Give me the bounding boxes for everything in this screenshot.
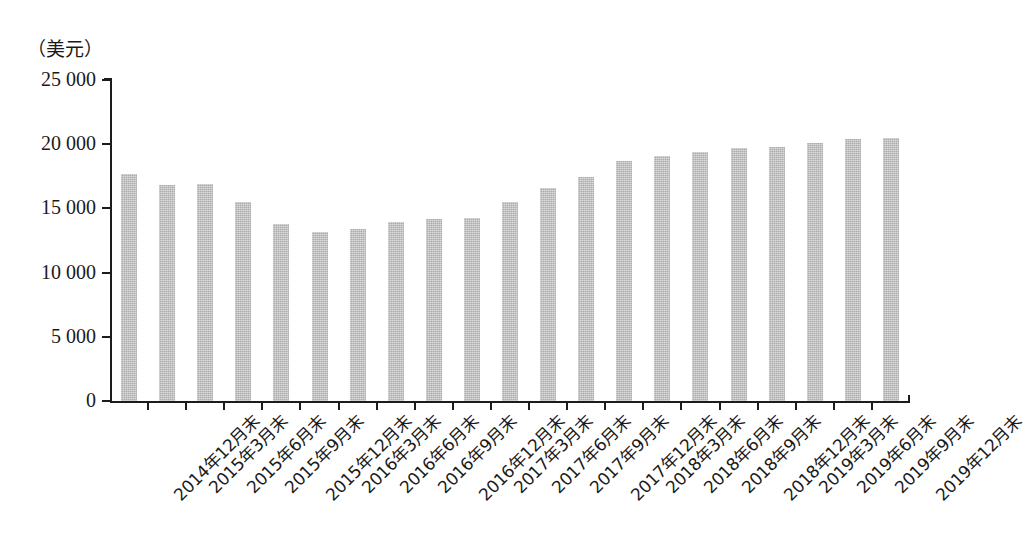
bar [502,202,518,401]
bar [807,143,823,401]
bar [883,138,899,401]
bar [312,232,328,401]
bar [845,139,861,401]
x-axis-tick [414,401,416,410]
bar [273,224,289,401]
x-axis-tick [795,401,797,410]
bar [616,161,632,401]
y-axis-tick-label: 25 000 [41,69,96,89]
bar [769,147,785,401]
x-axis-line [110,401,910,403]
x-axis-tick [757,401,759,410]
x-axis-tick [185,401,187,410]
y-axis-tick-label: 20 000 [41,133,96,153]
y-axis-tick [102,79,111,81]
y-axis-tick [102,336,111,338]
x-axis-right-cap [908,395,910,403]
x-axis-tick [452,401,454,410]
bar [197,184,213,401]
x-axis-tick [223,401,225,410]
bar [388,222,404,401]
bar [692,152,708,401]
x-axis-tick [376,401,378,410]
x-axis-tick [680,401,682,410]
bar [731,148,747,401]
x-axis-tick [338,401,340,410]
y-axis-label-group: 25 00020 00015 00010 0005 0000 [0,0,96,555]
bar [235,202,251,401]
x-axis-tick [528,401,530,410]
y-axis-line [110,78,112,403]
y-axis-tick [102,207,111,209]
bar [578,177,594,401]
bar [121,174,137,401]
x-axis-tick [833,401,835,410]
y-axis-tick-label: 5 000 [51,326,96,346]
bar [159,185,175,401]
y-axis-tick [102,272,111,274]
y-axis-tick-label: 10 000 [41,262,96,282]
bar [426,219,442,401]
bar [464,218,480,401]
x-axis-tick [147,401,149,410]
y-axis-tick-label: 0 [86,390,96,410]
y-axis-tick-label: 15 000 [41,197,96,217]
x-axis-tick [299,401,301,410]
x-axis-tick [719,401,721,410]
bar [654,156,670,401]
bar [350,229,366,401]
x-axis-tick [566,401,568,410]
x-axis-tick [490,401,492,410]
x-axis-tick [604,401,606,410]
x-axis-tick [871,401,873,410]
bar [540,188,556,401]
x-axis-tick [642,401,644,410]
y-axis-tick [102,143,111,145]
y-axis-tick [102,400,111,402]
x-axis-tick [261,401,263,410]
